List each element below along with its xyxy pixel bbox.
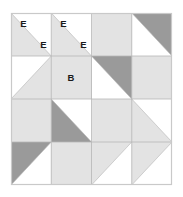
quilt-cell-r1-c3 (132, 56, 172, 99)
quilt-block-figure: EEEEB (0, 0, 183, 197)
quilt-cell-r3-c1 (51, 142, 91, 185)
quilt-cell-r0-c2 (92, 13, 132, 56)
cell-label-e-2: E (60, 18, 66, 29)
quilt-block-canvas: EEEEB (0, 0, 183, 197)
cell-label-e-3: E (80, 39, 86, 50)
cell-label-b-4: B (68, 72, 75, 83)
cell-label-e-0: E (20, 18, 26, 29)
cell-label-e-1: E (40, 39, 46, 50)
quilt-cell-r2-c0 (11, 99, 51, 142)
quilt-cell-r2-c2 (92, 99, 132, 142)
